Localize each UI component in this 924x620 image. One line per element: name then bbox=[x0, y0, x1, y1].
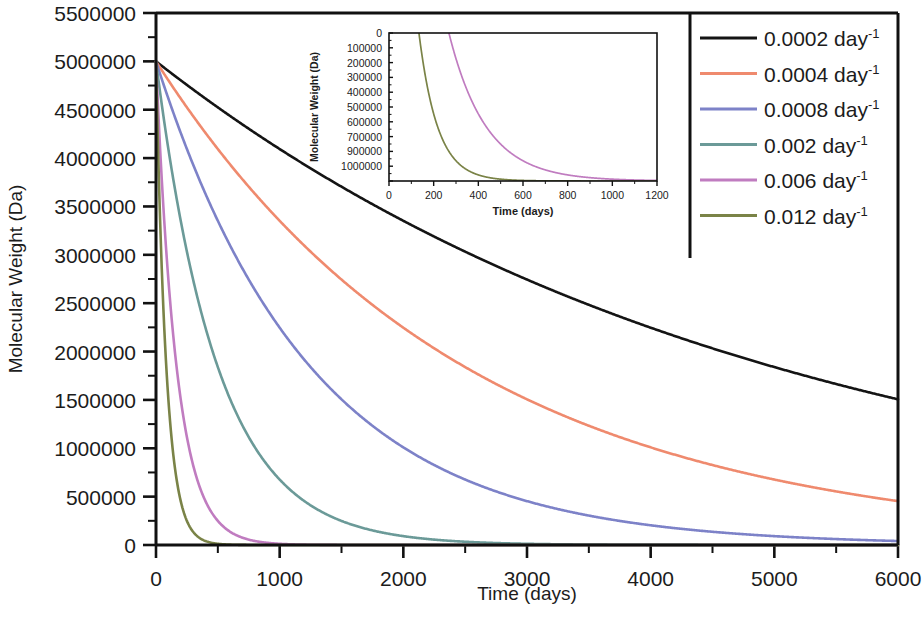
inset-y-tick-label: 900000 bbox=[347, 145, 382, 157]
x-axis-tick-label: 4000 bbox=[627, 567, 674, 590]
chart-legend: 0.0002 day-10.0004 day-10.0008 day-10.00… bbox=[690, 13, 880, 258]
inset-y-tick-label: 400000 bbox=[347, 86, 382, 98]
legend-item[interactable]: 0.0002 day-1 bbox=[700, 26, 880, 50]
inset-x-tick-label: 400 bbox=[470, 189, 488, 201]
legend-item[interactable]: 0.0008 day-1 bbox=[700, 97, 880, 121]
y-axis-tick-label: 4500000 bbox=[54, 99, 136, 122]
y-axis-tick-label: 5500000 bbox=[54, 2, 136, 25]
inset-y-tick-label: 700000 bbox=[347, 131, 382, 143]
inset-y-tick-label: 600000 bbox=[347, 116, 382, 128]
legend-item-label: 0.0008 day-1 bbox=[764, 97, 880, 121]
y-axis-tick-label: 0 bbox=[124, 534, 136, 557]
legend-item-label: 0.012 day-1 bbox=[764, 204, 868, 228]
x-axis-tick-label: 1000 bbox=[256, 567, 303, 590]
legend-item[interactable]: 0.0004 day-1 bbox=[700, 62, 880, 86]
inset-y-tick-label: 1000000 bbox=[341, 160, 382, 172]
inset-x-tick-label: 0 bbox=[386, 189, 392, 201]
x-axis-tick-label: 5000 bbox=[751, 567, 798, 590]
inset-y-tick-label: 500000 bbox=[347, 101, 382, 113]
legend-item[interactable]: 0.012 day-1 bbox=[700, 204, 868, 228]
x-axis-title: Time (days) bbox=[477, 583, 577, 604]
legend-item[interactable]: 0.006 day-1 bbox=[700, 168, 868, 192]
y-axis-tick-label: 2000000 bbox=[54, 341, 136, 364]
y-axis-tick-label: 5000000 bbox=[54, 50, 136, 73]
y-axis-tick-label: 500000 bbox=[66, 486, 136, 509]
inset-y-tick-label: 0 bbox=[376, 27, 382, 39]
inset-x-tick-label: 800 bbox=[559, 189, 577, 201]
y-axis-tick-label: 3500000 bbox=[54, 195, 136, 218]
inset-plot: 0100000200000300000400000500000600000700… bbox=[308, 0, 669, 217]
inset-y-tick-label: 200000 bbox=[347, 57, 382, 69]
y-axis-tick-label: 2500000 bbox=[54, 292, 136, 315]
x-axis-tick-label: 0 bbox=[150, 567, 162, 590]
inset-background bbox=[389, 33, 657, 181]
molecular-weight-decay-figure: 0500000100000015000002000000250000030000… bbox=[0, 0, 924, 620]
y-axis-tick-label: 1500000 bbox=[54, 389, 136, 412]
inset-x-tick-label: 1200 bbox=[645, 189, 669, 201]
legend-item[interactable]: 0.002 day-1 bbox=[700, 133, 868, 157]
inset-y-tick-label: 100000 bbox=[347, 42, 382, 54]
inset-x-tick-label: 600 bbox=[514, 189, 532, 201]
y-axis-tick-label: 4000000 bbox=[54, 147, 136, 170]
inset-x-axis-title: Time (days) bbox=[493, 205, 554, 217]
y-axis-title: Molecular Weight (Da) bbox=[5, 185, 26, 374]
inset-y-tick-label: 300000 bbox=[347, 71, 382, 83]
legend-item-label: 0.002 day-1 bbox=[764, 133, 868, 157]
x-axis-tick-label: 6000 bbox=[875, 567, 922, 590]
legend-item-label: 0.0004 day-1 bbox=[764, 62, 880, 86]
legend-item-label: 0.0002 day-1 bbox=[764, 26, 880, 50]
legend-item-label: 0.006 day-1 bbox=[764, 168, 868, 192]
inset-x-tick-label: 200 bbox=[425, 189, 443, 201]
y-axis-tick-label: 1000000 bbox=[54, 437, 136, 460]
x-axis-tick-label: 2000 bbox=[380, 567, 427, 590]
inset-x-tick-label: 1000 bbox=[601, 189, 625, 201]
chart-svg: 0500000100000015000002000000250000030000… bbox=[0, 0, 924, 620]
inset-y-axis-title: Molecular Weight (Da) bbox=[308, 52, 320, 162]
y-axis-tick-label: 3000000 bbox=[54, 244, 136, 267]
